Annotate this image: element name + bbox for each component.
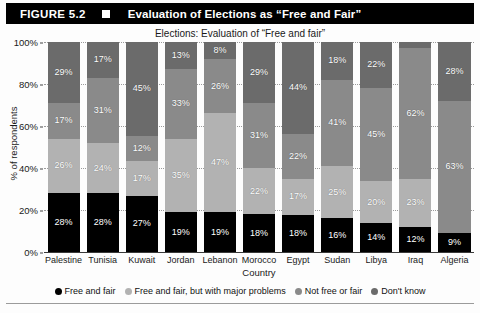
bar-segment-label: 63% [445, 162, 463, 171]
bar-segment-label: 47% [211, 158, 229, 167]
bar-segment-label: 18% [328, 56, 346, 65]
bar-segment[interactable]: 19% [165, 212, 197, 252]
bar-segment[interactable]: 8% [204, 42, 236, 59]
bar-segment[interactable]: 47% [204, 113, 236, 212]
bar-segment[interactable]: 12% [126, 136, 158, 161]
bar-segment-label: 17% [133, 174, 151, 183]
bar-segment-label: 22% [367, 60, 385, 69]
y-axis-ticks: 0%20%40%60%80%100% [0, 42, 44, 252]
figure-container: FIGURE 5.2 Evaluation of Elections as “F… [0, 0, 480, 313]
bar-segment-label: 28% [445, 67, 463, 76]
x-axis-label: Country [44, 267, 474, 278]
bar-segment-label: 20% [367, 198, 385, 207]
bar-segment-label: 35% [172, 171, 190, 180]
bar-segment[interactable]: 29% [48, 42, 80, 103]
bar-segment-label: 23% [406, 198, 424, 207]
bar-column[interactable]: 16%25%41%18% [318, 42, 357, 252]
x-axis-tick-label: Iraq [396, 255, 435, 265]
bar-segment[interactable]: 20% [360, 181, 392, 223]
legend-label: Free and fair [65, 286, 116, 296]
y-axis-tick: 60% [19, 121, 38, 132]
bar-segment[interactable]: 17% [48, 103, 80, 139]
bottom-divider [6, 303, 474, 304]
bar-column[interactable]: 19%47%26%8% [200, 42, 239, 252]
bar-segment[interactable]: 18% [282, 215, 314, 252]
bar-column[interactable]: 18%17%22%44% [279, 42, 318, 252]
bar-segment-label: 18% [250, 229, 268, 238]
bar-segment[interactable]: 45% [360, 88, 392, 182]
bar-segment-label: 29% [250, 68, 268, 77]
legend-item[interactable]: Don't know [371, 286, 425, 296]
bar-segment[interactable] [399, 42, 431, 48]
bar-segment[interactable]: 28% [438, 42, 470, 101]
bar-segment-label: 19% [172, 228, 190, 237]
bar-segment[interactable]: 25% [321, 166, 353, 219]
legend-dot-icon [295, 288, 302, 295]
bar-segment[interactable]: 22% [360, 42, 392, 88]
y-axis-tick: 0% [24, 247, 38, 258]
bar-segment[interactable]: 28% [87, 193, 119, 252]
bar-segment[interactable]: 26% [48, 139, 80, 194]
bar-segment[interactable]: 22% [243, 168, 275, 214]
white-square-icon [102, 10, 110, 18]
bar-segment[interactable]: 33% [165, 69, 197, 138]
bar-segment[interactable]: 29% [243, 42, 275, 103]
bar-column[interactable]: 9%63%28% [435, 42, 474, 252]
figure-title: Evaluation of Elections as “Free and Fai… [128, 8, 362, 20]
bar-column[interactable]: 18%22%31%29% [239, 42, 278, 252]
bar-segment-label: 13% [172, 51, 190, 60]
bar-segment-label: 41% [328, 118, 346, 127]
bar-segment[interactable]: 62% [399, 48, 431, 178]
bar-segment[interactable]: 26% [204, 59, 236, 114]
x-axis-tick-label: Tunisia [83, 255, 122, 265]
bar-segment[interactable]: 24% [87, 143, 119, 193]
bar-segment[interactable]: 45% [126, 42, 158, 136]
bar-segment[interactable]: 41% [321, 80, 353, 166]
bar-segment[interactable]: 14% [360, 223, 392, 252]
bar-segment[interactable]: 28% [48, 193, 80, 252]
bar-column[interactable]: 27%17%12%45% [122, 42, 161, 252]
bar-segment[interactable]: 63% [438, 101, 470, 233]
bar-segment[interactable]: 18% [243, 214, 275, 252]
bar-segment[interactable]: 17% [282, 179, 314, 214]
legend-item[interactable]: Free and fair [55, 286, 116, 296]
bar-column[interactable]: 28%24%31%17% [83, 42, 122, 252]
x-axis-tick-label: Algeria [435, 255, 474, 265]
bar-column[interactable]: 19%35%33%13% [161, 42, 200, 252]
bar-segment[interactable]: 31% [87, 78, 119, 143]
bar-segment[interactable]: 27% [126, 196, 158, 252]
bar-segment[interactable]: 35% [165, 139, 197, 213]
bar-segment-label: 12% [406, 235, 424, 244]
bar-segment[interactable]: 31% [243, 103, 275, 168]
bar-segment-label: 18% [289, 229, 307, 238]
x-axis-tick-label: Palestine [44, 255, 83, 265]
bar-segment[interactable]: 16% [321, 218, 353, 252]
bar-segment[interactable]: 18% [321, 42, 353, 80]
bar-segment[interactable]: 13% [165, 42, 197, 69]
bar-segment[interactable]: 17% [126, 161, 158, 196]
bar-column[interactable]: 28%26%17%29% [44, 42, 83, 252]
bar-segment[interactable]: 22% [282, 134, 314, 180]
x-axis-tick-label: Jordan [161, 255, 200, 265]
bar-segment-label: 8% [213, 46, 226, 55]
legend-item[interactable]: Not free or fair [295, 286, 363, 296]
bar-segment[interactable]: 23% [399, 179, 431, 227]
bar-group: 28%26%17%29%28%24%31%17%27%17%12%45%19%3… [44, 42, 474, 252]
bar-segment[interactable]: 17% [87, 42, 119, 78]
bar-segment[interactable]: 44% [282, 42, 314, 133]
legend-item[interactable]: Free and fair, but with major problems [125, 286, 286, 296]
figure-number: FIGURE 5.2 [20, 8, 86, 20]
y-axis-tick: 100% [14, 37, 38, 48]
bar-segment-label: 27% [133, 219, 151, 228]
bar-column[interactable]: 14%20%45%22% [357, 42, 396, 252]
bar-segment[interactable]: 12% [399, 227, 431, 252]
bar-segment[interactable]: 19% [204, 212, 236, 252]
chart-title: Elections: Evaluation of “Free and fair” [0, 28, 480, 39]
bar-segment[interactable]: 9% [438, 233, 470, 252]
plot-wrapper: % of respondents 0%20%40%60%80%100% 28%2… [0, 42, 480, 274]
legend-label: Don't know [381, 286, 425, 296]
bar-segment-label: 26% [211, 82, 229, 91]
y-axis-tick: 40% [19, 163, 38, 174]
figure-header-bar: FIGURE 5.2 Evaluation of Elections as “F… [6, 3, 474, 24]
bar-column[interactable]: 12%23%62% [396, 42, 435, 252]
